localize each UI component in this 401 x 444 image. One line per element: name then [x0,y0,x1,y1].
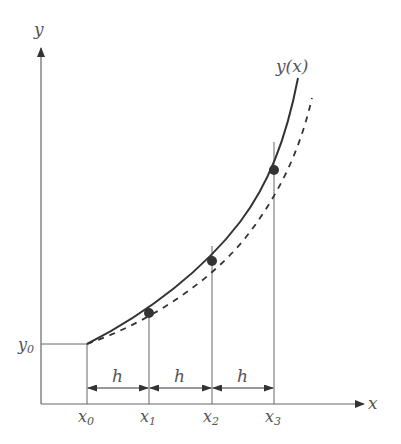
approx-curve [87,98,312,344]
y0-label: y0 [17,335,34,356]
euler-point-2 [207,256,217,266]
h-label-3: h [237,366,248,386]
curve-label: y(x) [275,56,308,76]
euler-point-1 [144,308,154,318]
euler-point-3 [269,165,279,175]
h-label-2: h [174,366,185,386]
x0-label: x0 [78,407,94,428]
x1-label: x1 [140,407,156,428]
y-axis-label: y [33,19,44,39]
x3-label: x3 [265,407,281,428]
euler-method-diagram: y x y0 h h h y(x) x0 x1 x2 x3 [0,0,401,444]
exact-curve [87,78,298,344]
h-label-1: h [112,366,123,386]
x2-label: x2 [203,407,219,428]
x-axis-label: x [368,393,378,413]
